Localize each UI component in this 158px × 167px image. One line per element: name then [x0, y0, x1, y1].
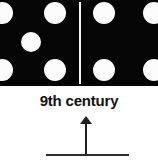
- domino-pip-right-1: [93, 2, 115, 24]
- domino-tile: [0, 0, 158, 86]
- domino-left-half: [0, 0, 79, 86]
- domino-pip-right-4: [143, 59, 158, 81]
- domino-pip-right-3: [93, 59, 115, 81]
- domino-pip-left-4: [0, 59, 13, 81]
- domino-right-half: [81, 0, 158, 86]
- domino-pip-right-2: [143, 2, 158, 24]
- domino-pip-left-1: [0, 2, 13, 24]
- domino-pip-left-5: [44, 59, 66, 81]
- domino-pip-left-2: [44, 2, 66, 24]
- caption-label: 9th century: [0, 92, 158, 110]
- timeline-baseline: [46, 154, 129, 156]
- arrow-up-shaft: [85, 121, 87, 155]
- domino-timeline-figure: 9th century: [0, 0, 158, 167]
- domino-pip-left-3: [21, 32, 41, 52]
- domino-divider-line: [79, 2, 81, 84]
